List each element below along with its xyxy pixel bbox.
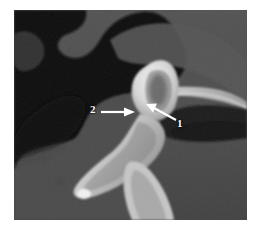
radiograph-viewport: 2 1 [14, 10, 247, 220]
annotation-1-label: 1 [177, 118, 183, 129]
annotation-2-label: 2 [90, 104, 96, 115]
figure-page: 2 1 [0, 0, 254, 232]
radiograph-image [14, 10, 247, 220]
image-noise-overlay [14, 10, 247, 220]
